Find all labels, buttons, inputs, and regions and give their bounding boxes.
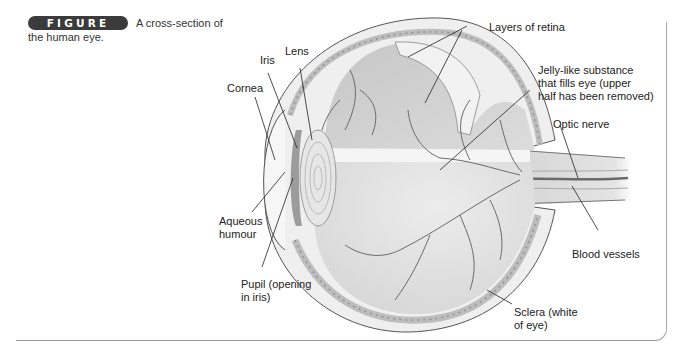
figure-caption: A cross-section of the human eye. <box>28 16 238 44</box>
label-aqueous-line2: humour <box>219 227 256 241</box>
lens-graphic <box>300 130 336 226</box>
label-jelly-like-line2: that fills eye (upper <box>538 76 631 90</box>
label-optic-nerve: Optic nerve <box>553 117 609 131</box>
label-pupil-line1: Pupil (opening <box>241 277 311 291</box>
label-iris: Iris <box>260 53 275 67</box>
label-jelly-like-line3: half has been removed) <box>538 89 654 103</box>
label-pupil-line2: in iris) <box>241 290 270 304</box>
label-sclera-line2: of eye) <box>514 318 548 332</box>
eye-cross-section-illustration <box>0 0 691 358</box>
label-lens: Lens <box>285 44 309 58</box>
label-cornea: Cornea <box>227 81 263 95</box>
label-aqueous-line1: Aqueous <box>219 214 262 228</box>
label-layers-of-retina: Layers of retina <box>489 20 565 34</box>
label-blood-vessels: Blood vessels <box>572 247 640 261</box>
cornea-graphic <box>264 110 285 250</box>
label-jelly-like-line1: Jelly-like substance <box>538 63 633 77</box>
label-sclera-line1: Sclera (white <box>514 305 578 319</box>
